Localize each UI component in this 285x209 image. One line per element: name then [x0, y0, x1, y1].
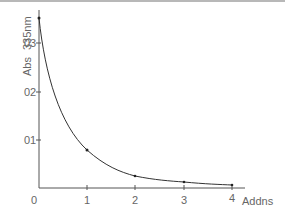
xtick-label-4: 4 [229, 192, 235, 204]
xtick-label-2: 2 [132, 194, 138, 206]
data-point [183, 181, 186, 184]
xtick-label-3: 3 [181, 194, 187, 206]
data-point [38, 17, 41, 20]
y-axis-title-wavelength: 335nm [21, 16, 33, 50]
x-axis-title: Addns [242, 195, 274, 207]
origin-label: 0 [31, 194, 37, 206]
y-tick-labels: 01 02 03 [24, 37, 36, 146]
ytick-label-0.2: 02 [24, 86, 36, 98]
data-points [38, 17, 234, 187]
absorbance-chart: 01 02 03 0 1 2 3 4 Addns Abs 335nm [0, 0, 285, 209]
y-axis-title-abs: Abs [21, 57, 33, 76]
data-point [134, 175, 137, 178]
decay-curve [39, 18, 232, 185]
xtick-label-1: 1 [84, 194, 90, 206]
ytick-label-0.1: 01 [24, 134, 36, 146]
x-tick-labels: 0 1 2 3 4 [31, 192, 235, 206]
data-point [86, 149, 89, 152]
data-point [231, 184, 234, 187]
